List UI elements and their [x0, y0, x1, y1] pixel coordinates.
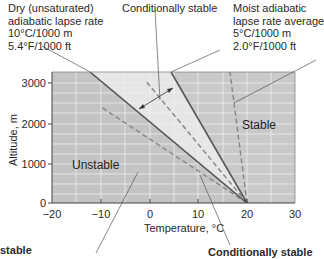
dry-line-2: adiabatic lapse rate: [8, 15, 103, 28]
x-tick-20: 20: [241, 208, 253, 220]
region-label-stable: Stable: [242, 118, 276, 132]
y-tick-2000: 2000: [22, 118, 46, 130]
region-label-unstable: Unstable: [72, 158, 120, 172]
moist-line-1: Moist adiabatic: [233, 2, 324, 15]
bottom-left-label: stable: [0, 244, 32, 257]
y-axis-label: Altitude, m: [7, 114, 19, 166]
moist-line-4: 2.0°F/1000 ft: [233, 40, 324, 53]
y-tick-3000: 3000: [22, 77, 46, 89]
moist-line-2: lapse rate average: [233, 15, 324, 28]
x-tick-0: 0: [147, 208, 153, 220]
bottom-right-label: Conditionally stable: [208, 246, 313, 259]
y-tick-1000: 1000: [22, 158, 46, 170]
x-tick-30: 30: [289, 208, 301, 220]
x-axis-label: Temperature, °C: [144, 222, 224, 234]
x-tick--20: −20: [43, 208, 62, 220]
x-tick-10: 10: [192, 208, 204, 220]
dry-annotation: Dry (unsaturated) adiabatic lapse rate 1…: [8, 2, 103, 52]
dry-line-1: Dry (unsaturated): [8, 2, 103, 15]
x-tick--10: −10: [92, 208, 111, 220]
conditionally-stable-top-label: Conditionally stable: [122, 2, 217, 15]
moist-line-3: 5°C/1000 m: [233, 27, 324, 40]
moist-annotation: Moist adiabatic lapse rate average 5°C/1…: [233, 2, 324, 52]
dry-line-3: 10°C/1000 m: [8, 27, 103, 40]
dry-line-4: 5.4°F/1000 ft: [8, 40, 103, 53]
